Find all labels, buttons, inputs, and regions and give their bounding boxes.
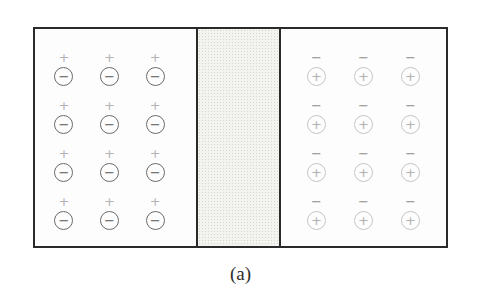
negative-charge-unit: +−	[41, 93, 87, 141]
minus-icon: −	[405, 51, 416, 65]
positive-charge-unit: −+	[387, 188, 434, 236]
minus-icon: −	[358, 99, 369, 113]
positive-charge-unit: −+	[340, 141, 387, 189]
figure-caption: (a)	[33, 263, 448, 285]
circled-plus-icon: +	[354, 211, 373, 230]
positive-charge-unit: −+	[387, 45, 434, 93]
circled-minus-icon: −	[100, 163, 119, 182]
plus-icon: +	[58, 147, 69, 161]
negative-charge-unit: +−	[41, 141, 87, 189]
circled-plus-icon: +	[354, 67, 373, 86]
negative-charge-unit: +−	[87, 93, 133, 141]
right-positive-charge-region: −+−+−+−+−+−+−+−+−+−+−+−+	[281, 29, 446, 246]
positive-charge-unit: −+	[387, 141, 434, 189]
left-negative-charge-region: +−+−+−+−+−+−+−+−+−+−+−+−	[35, 29, 196, 246]
plus-icon: +	[150, 51, 161, 65]
minus-icon: −	[405, 195, 416, 209]
circled-minus-icon: −	[146, 67, 165, 86]
circled-plus-icon: +	[401, 115, 420, 134]
positive-charge-unit: −+	[293, 45, 340, 93]
plus-icon: +	[104, 195, 115, 209]
plus-icon: +	[150, 195, 161, 209]
negative-charge-unit: +−	[132, 188, 178, 236]
circled-minus-icon: −	[54, 67, 73, 86]
minus-icon: −	[311, 51, 322, 65]
circled-plus-icon: +	[307, 67, 326, 86]
negative-charge-unit: +−	[87, 141, 133, 189]
circled-minus-icon: −	[146, 211, 165, 230]
circled-plus-icon: +	[354, 115, 373, 134]
negative-charge-unit: +−	[87, 45, 133, 93]
minus-icon: −	[358, 195, 369, 209]
circled-minus-icon: −	[100, 67, 119, 86]
negative-charge-unit: +−	[87, 188, 133, 236]
plus-icon: +	[150, 147, 161, 161]
plus-icon: +	[150, 99, 161, 113]
positive-charge-unit: −+	[293, 188, 340, 236]
circled-plus-icon: +	[307, 115, 326, 134]
circled-plus-icon: +	[354, 163, 373, 182]
minus-icon: −	[405, 147, 416, 161]
positive-charge-unit: −+	[340, 188, 387, 236]
plus-icon: +	[58, 51, 69, 65]
minus-icon: −	[405, 99, 416, 113]
positive-charge-unit: −+	[293, 93, 340, 141]
charge-diagram: +−+−+−+−+−+−+−+−+−+−+−+− −+−+−+−+−+−+−+−…	[33, 27, 448, 248]
plus-icon: +	[104, 51, 115, 65]
minus-icon: −	[358, 51, 369, 65]
positive-charge-unit: −+	[340, 45, 387, 93]
circled-minus-icon: −	[54, 163, 73, 182]
circled-minus-icon: −	[146, 115, 165, 134]
minus-icon: −	[311, 195, 322, 209]
minus-icon: −	[358, 147, 369, 161]
negative-charge-unit: +−	[132, 45, 178, 93]
circled-plus-icon: +	[401, 67, 420, 86]
minus-icon: −	[311, 147, 322, 161]
plus-icon: +	[104, 147, 115, 161]
positive-charge-unit: −+	[293, 141, 340, 189]
negative-charge-unit: +−	[132, 141, 178, 189]
minus-icon: −	[311, 99, 322, 113]
circled-plus-icon: +	[307, 211, 326, 230]
circled-plus-icon: +	[307, 163, 326, 182]
circled-minus-icon: −	[100, 115, 119, 134]
circled-plus-icon: +	[401, 211, 420, 230]
circled-minus-icon: −	[146, 163, 165, 182]
plus-icon: +	[58, 195, 69, 209]
negative-charge-unit: +−	[41, 45, 87, 93]
circled-minus-icon: −	[100, 211, 119, 230]
plus-icon: +	[104, 99, 115, 113]
negative-charge-unit: +−	[132, 93, 178, 141]
circled-minus-icon: −	[54, 115, 73, 134]
circled-minus-icon: −	[54, 211, 73, 230]
negative-charge-unit: +−	[41, 188, 87, 236]
positive-charge-unit: −+	[387, 93, 434, 141]
plus-icon: +	[58, 99, 69, 113]
circled-plus-icon: +	[401, 163, 420, 182]
figure-canvas: +−+−+−+−+−+−+−+−+−+−+−+− −+−+−+−+−+−+−+−…	[0, 0, 481, 308]
stippled-gap-band	[196, 29, 281, 246]
positive-charge-unit: −+	[340, 93, 387, 141]
